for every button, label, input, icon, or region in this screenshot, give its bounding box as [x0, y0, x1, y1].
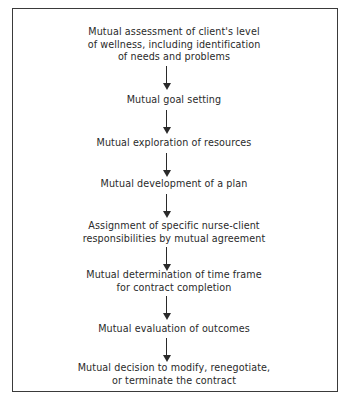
step-line: Mutual determination of time frame	[0, 269, 348, 282]
step-line: Mutual evaluation of outcomes	[0, 323, 348, 336]
step-line: Mutual development of a plan	[0, 178, 348, 191]
step-line: Mutual decision to modify, renegotiate,	[0, 362, 348, 375]
step-evaluation-outcomes: Mutual evaluation of outcomes	[0, 323, 348, 336]
step-line: Mutual goal setting	[0, 94, 348, 107]
step-line: Mutual assessment of client's level	[0, 26, 348, 39]
step-development-plan: Mutual development of a plan	[0, 178, 348, 191]
step-line: or terminate the contract	[0, 375, 348, 388]
step-exploration-resources: Mutual exploration of resources	[0, 137, 348, 150]
step-assignment-responsibilities: Assignment of specific nurse-client resp…	[0, 220, 348, 245]
step-line: for contract completion	[0, 282, 348, 295]
step-line: of needs and problems	[0, 51, 348, 64]
step-line: responsibilities by mutual agreement	[0, 233, 348, 246]
step-time-frame: Mutual determination of time frame for c…	[0, 269, 348, 294]
step-line: of wellness, including identification	[0, 39, 348, 52]
step-goal-setting: Mutual goal setting	[0, 94, 348, 107]
step-line: Assignment of specific nurse-client	[0, 220, 348, 233]
step-line: Mutual exploration of resources	[0, 137, 348, 150]
step-decision-modify: Mutual decision to modify, renegotiate, …	[0, 362, 348, 387]
step-assessment: Mutual assessment of client's level of w…	[0, 26, 348, 64]
